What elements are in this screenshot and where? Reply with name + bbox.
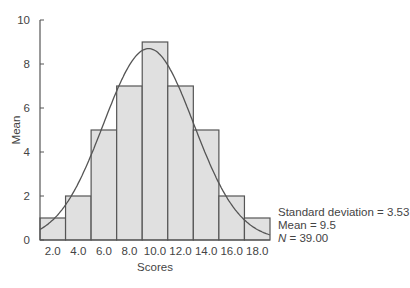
x-tick-label: 16.0: [220, 245, 242, 257]
x-axis-label: Scores: [137, 261, 173, 273]
y-tick-label: 0: [24, 234, 30, 246]
x-tick-label: 14.0: [195, 245, 217, 257]
x-tick-label: 2.0: [45, 245, 61, 257]
n-value: = 39.00: [286, 232, 328, 244]
x-tick-label: 6.0: [96, 245, 112, 257]
histogram-bar: [117, 86, 143, 240]
histogram-bar: [66, 196, 92, 240]
histogram-bar: [193, 130, 219, 240]
mean-label: Mean = 9.5: [278, 219, 409, 232]
x-tick-label: 12.0: [169, 245, 191, 257]
x-tick-label: 8.0: [121, 245, 137, 257]
std-dev-label: Standard deviation = 3.53: [278, 206, 409, 219]
x-tick-label: 18.0: [246, 245, 268, 257]
histogram-bar: [168, 86, 194, 240]
histogram-bar: [40, 218, 66, 240]
y-tick-label: 10: [17, 14, 30, 26]
y-axis-label: Mean: [10, 116, 22, 145]
n-label: N = 39.00: [278, 232, 409, 245]
x-tick-label: 4.0: [70, 245, 86, 257]
summary-statistics: Standard deviation = 3.53 Mean = 9.5 N =…: [278, 206, 409, 245]
x-tick-label: 10.0: [144, 245, 166, 257]
y-tick-label: 4: [24, 146, 31, 158]
histogram-bar: [142, 42, 168, 240]
y-tick-label: 2: [24, 190, 30, 202]
y-tick-label: 6: [24, 102, 30, 114]
histogram-bar: [219, 196, 245, 240]
y-tick-label: 8: [24, 58, 30, 70]
